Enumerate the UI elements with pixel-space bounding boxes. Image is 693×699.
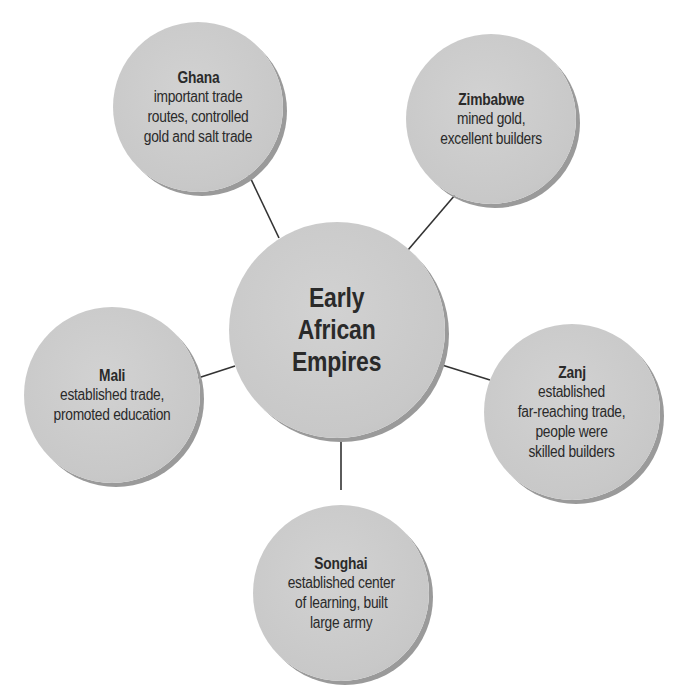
center-node-label: Early African Empires <box>292 282 381 378</box>
node-mali-description: established trade, promoted education <box>54 385 171 425</box>
node-zanj-name: Zanj <box>558 363 586 382</box>
node-mali-name: Mali <box>99 366 125 385</box>
connector-zanj <box>442 365 490 380</box>
node-songhai-description: established center of learning, built la… <box>287 573 394 633</box>
node-zimbabwe-description: mined gold, excellent builders <box>440 109 542 149</box>
node-ghana: Ghana important trade routes, controlled… <box>113 22 283 192</box>
node-mali: Mali established trade, promoted educati… <box>24 307 200 483</box>
node-zanj: Zanj established far-reaching trade, peo… <box>484 324 660 500</box>
node-songhai-name: Songhai <box>314 554 367 573</box>
node-zimbabwe-name: Zimbabwe <box>458 90 524 109</box>
connector-ghana <box>249 175 279 238</box>
node-zimbabwe: Zimbabwe mined gold, excellent builders <box>406 34 576 204</box>
node-ghana-description: important trade routes, controlled gold … <box>144 87 252 147</box>
node-zanj-description: established far-reaching trade, people w… <box>518 382 626 462</box>
node-songhai: Songhai established center of learning, … <box>253 505 429 681</box>
connector-zimbabwe <box>408 195 455 250</box>
center-node-early-african-empires: Early African Empires <box>229 222 445 438</box>
node-ghana-name: Ghana <box>177 68 219 87</box>
connector-mali <box>198 366 235 378</box>
